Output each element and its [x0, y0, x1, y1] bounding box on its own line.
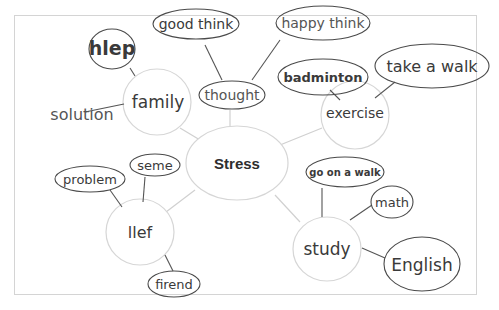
child-node-english: English — [386, 250, 458, 280]
branch-node-exercise: exercise — [321, 98, 389, 128]
connector-llef-seme — [143, 177, 145, 202]
child-node-go-on-a-walk: go on a walk — [308, 161, 382, 183]
branch-node-study: study — [293, 234, 361, 264]
child-node-hlep: hlep — [89, 30, 135, 66]
branch-node-llef: llef — [108, 218, 172, 246]
connector-llef-firend — [165, 255, 173, 271]
connector-study-english — [362, 248, 385, 258]
connector-study-math — [350, 205, 372, 220]
center-label: Stress — [214, 155, 260, 172]
connector-thought-goodthink — [205, 45, 222, 80]
child-node-good-think: good think — [153, 12, 239, 36]
connector-llef-problem — [110, 190, 122, 207]
branch-node-family: family — [123, 82, 193, 122]
connector-thought-happythink — [252, 40, 280, 80]
child-node-math: math — [372, 190, 412, 214]
branch-node-thought: thought — [199, 83, 265, 107]
center-node-stress: Stress — [186, 126, 288, 200]
child-node-happy-think: happy think — [276, 10, 370, 36]
child-node-problem: problem — [56, 168, 124, 190]
child-node-badminton: badminton — [280, 64, 366, 90]
child-node-seme: seme — [131, 155, 179, 175]
mind-map-canvas: Stress family hlep solution thought good… — [0, 0, 499, 310]
connector-family-hlep — [130, 68, 135, 76]
child-node-take-a-walk: take a walk — [377, 52, 487, 80]
child-node-firend: firend — [149, 273, 199, 295]
child-node-solution: solution — [44, 100, 120, 128]
